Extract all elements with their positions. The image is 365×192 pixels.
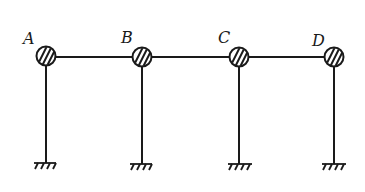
label-d: D [311,31,325,50]
label-a: A [21,29,35,48]
fixed-supports [34,163,346,170]
node-d [324,45,346,69]
fixed-support-icon [228,164,252,170]
fixed-support-icon [34,163,56,169]
fixed-support-icon [322,164,346,170]
label-c: C [218,28,230,47]
fixed-support-icon [130,164,152,170]
node-a [36,44,58,68]
frame-diagram: A B C D [0,0,365,192]
node-b [132,45,154,69]
columns [46,66,334,164]
label-b: B [120,28,133,47]
node-c [229,45,251,69]
